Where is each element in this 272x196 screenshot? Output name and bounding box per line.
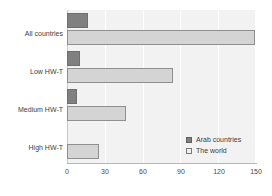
legend-label-arab-countries: Arab countries [196, 136, 241, 144]
bar-arab-medium-hwt [67, 89, 77, 104]
legend-swatch-arab-countries-icon [186, 137, 192, 143]
bar-chart: All countries Low HW-T Medium HW-T High … [0, 0, 272, 196]
x-tick-60: 60 [139, 168, 147, 175]
x-axis-line [67, 163, 257, 164]
bar-world-medium-hwt [67, 106, 126, 121]
x-tick-150: 150 [250, 168, 262, 175]
bar-arab-low-hwt [67, 51, 80, 66]
gridline-150 [255, 10, 256, 163]
legend-swatch-the-world-icon [186, 148, 192, 154]
y-axis-label-medium-hwt: Medium HW-T [0, 106, 63, 113]
legend-label-the-world: The world [196, 147, 227, 155]
x-tick-30: 30 [101, 168, 109, 175]
y-axis-label-all-countries: All countries [0, 30, 63, 37]
y-axis-label-low-hwt: Low HW-T [0, 68, 63, 75]
bar-arab-all-countries [67, 13, 88, 28]
x-tick-0: 0 [65, 168, 69, 175]
legend-item-arab-countries: Arab countries [186, 135, 241, 145]
legend-item-the-world: The world [186, 146, 241, 156]
x-tick-120: 120 [213, 168, 225, 175]
x-tick-90: 90 [177, 168, 185, 175]
bar-world-low-hwt [67, 68, 173, 83]
bar-world-all-countries [67, 30, 255, 45]
bar-world-high-hwt [67, 144, 99, 159]
chart-legend: Arab countries The world [186, 135, 241, 157]
y-axis-label-high-hwt: High HW-T [0, 144, 63, 151]
